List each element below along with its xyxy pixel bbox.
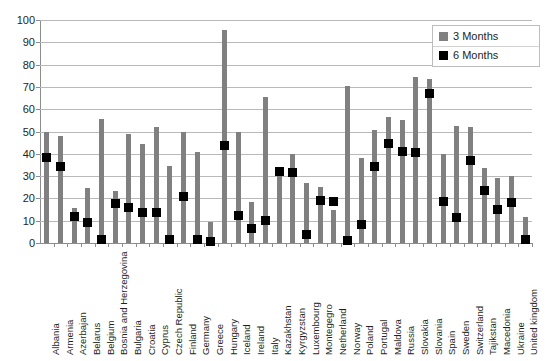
x-tick-label: Armenia <box>65 320 75 355</box>
x-tick-label: Albania <box>51 323 61 355</box>
marker-6-months <box>384 139 393 148</box>
x-tick-mark <box>532 243 533 247</box>
x-tick-label: Hungary <box>229 319 239 355</box>
x-tick-label: Ukraine <box>516 322 526 355</box>
gridline <box>40 87 532 88</box>
x-tick-label: United kingdom <box>529 289 539 355</box>
marker-6-months <box>425 89 434 98</box>
x-tick-label: Slovakia <box>420 319 430 355</box>
x-tick-label: Greece <box>215 324 225 355</box>
marker-6-months <box>452 213 461 222</box>
x-tick-label: Azerbajan <box>78 312 88 355</box>
x-tick-label: Croatia <box>147 324 157 355</box>
bar-3-months <box>454 126 459 243</box>
legend-label: 3 Months <box>453 31 498 42</box>
marker-6-months <box>193 235 202 244</box>
marker-6-months <box>480 186 489 195</box>
marker-6-months <box>165 235 174 244</box>
marker-6-months <box>247 224 256 233</box>
bar-3-months <box>236 132 241 244</box>
y-tick-label: 0 <box>29 238 35 249</box>
bar-3-months <box>85 188 90 243</box>
marker-6-months <box>507 198 516 207</box>
marker-6-months <box>83 218 92 227</box>
gridline <box>40 109 532 110</box>
chart-legend: 3 Months 6 Months <box>432 25 540 67</box>
marker-6-months <box>124 203 133 212</box>
x-tick-label: Portugal <box>379 320 389 355</box>
y-tick-mark <box>36 221 40 222</box>
bar-3-months <box>372 130 377 243</box>
marker-6-months <box>370 162 379 171</box>
x-tick-label: Germany <box>201 316 211 355</box>
x-tick-label: Sweden <box>461 321 471 355</box>
gridline <box>40 20 532 21</box>
x-tick-label: Bosnia and Herzegovina <box>119 251 129 355</box>
x-tick-label: Russia <box>406 326 416 355</box>
x-tick-label: Poland <box>365 325 375 355</box>
y-tick-label: 10 <box>23 216 35 227</box>
legend-label: 6 Months <box>453 50 498 61</box>
bar-3-months <box>482 168 487 243</box>
bar-3-months <box>167 166 172 243</box>
y-tick-mark <box>36 87 40 88</box>
marker-6-months <box>288 168 297 177</box>
bar-3-months <box>331 210 336 243</box>
chart-container: 0102030405060708090100 AlbaniaArmeniaAze… <box>0 0 549 361</box>
y-tick-mark <box>36 109 40 110</box>
bar-3-months <box>290 154 295 243</box>
x-tick-label: Italy <box>270 338 280 355</box>
x-tick-label: Luxembourg <box>311 302 321 355</box>
x-tick-label: Ireland <box>256 326 266 355</box>
bar-3-months <box>509 176 514 243</box>
y-axis-tick-labels: 0102030405060708090100 <box>0 20 35 244</box>
x-tick-label: Finland <box>188 324 198 355</box>
y-tick-mark <box>36 154 40 155</box>
marker-6-months <box>343 236 352 245</box>
y-tick-label: 20 <box>23 193 35 204</box>
marker-6-months <box>206 237 215 246</box>
y-tick-label: 90 <box>23 37 35 48</box>
x-tick-label: Switzerland <box>475 306 485 355</box>
x-tick-label: Tajikstan <box>488 318 498 355</box>
bar-3-months <box>181 132 186 244</box>
x-tick-label: Norway <box>352 323 362 355</box>
y-tick-label: 50 <box>23 127 35 138</box>
y-tick-label: 80 <box>23 60 35 71</box>
x-tick-label: Cyprus <box>160 325 170 355</box>
y-tick-label: 40 <box>23 149 35 160</box>
marker-6-months <box>316 196 325 205</box>
x-tick-label: Slovania <box>434 319 444 355</box>
bar-3-months <box>58 136 63 243</box>
bar-3-months <box>195 152 200 243</box>
y-tick-label: 100 <box>17 15 35 26</box>
marker-6-months <box>439 197 448 206</box>
marker-6-months <box>411 148 420 157</box>
bar-3-months <box>277 172 282 243</box>
marker-6-months <box>179 192 188 201</box>
marker-6-months <box>329 197 338 206</box>
bar-3-months <box>126 134 131 243</box>
y-tick-mark <box>36 42 40 43</box>
legend-entry-3-months: 3 Months <box>439 29 498 43</box>
y-tick-mark <box>36 65 40 66</box>
marker-6-months <box>152 208 161 217</box>
x-tick-label: Bulgaria <box>133 320 143 355</box>
marker-6-months <box>220 141 229 150</box>
marker-6-months <box>138 208 147 217</box>
y-tick-mark <box>36 176 40 177</box>
legend-divider <box>433 46 539 47</box>
bar-3-months <box>400 120 405 243</box>
marker-6-months <box>111 199 120 208</box>
x-tick-label: Kyrgyzstan <box>297 308 307 355</box>
x-tick-label: Kazakhstan <box>283 305 293 355</box>
y-tick-mark <box>36 243 40 244</box>
x-tick-label: Iceland <box>242 324 252 355</box>
x-tick-label: Belarus <box>92 323 102 355</box>
bar-3-months <box>468 127 473 243</box>
marker-6-months <box>261 216 270 225</box>
marker-6-months <box>521 235 530 244</box>
x-tick-label: Belgium <box>106 321 116 355</box>
bar-3-months <box>154 127 159 243</box>
y-tick-mark <box>36 20 40 21</box>
